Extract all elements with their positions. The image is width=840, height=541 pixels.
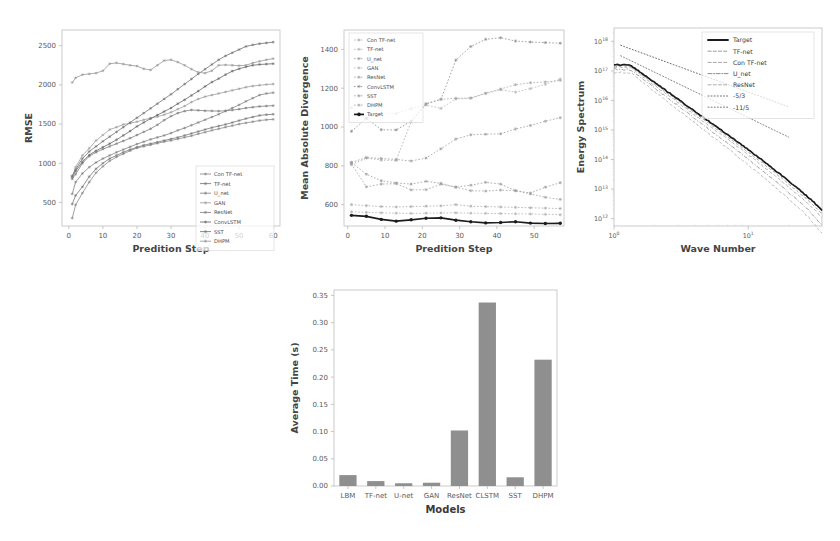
data-marker	[380, 182, 383, 185]
data-marker	[74, 181, 77, 184]
data-marker	[204, 131, 207, 134]
data-marker	[149, 107, 152, 110]
data-marker	[224, 54, 227, 57]
x-tick-label: 10	[98, 232, 107, 240]
data-marker	[365, 215, 368, 218]
y-tick-label: 1400	[320, 46, 338, 54]
data-marker	[265, 92, 268, 95]
data-marker	[245, 86, 248, 89]
data-marker	[499, 132, 502, 135]
data-marker	[115, 154, 118, 157]
data-marker	[136, 120, 139, 123]
data-marker	[265, 58, 268, 61]
data-marker	[469, 96, 472, 99]
data-marker	[81, 192, 84, 195]
data-marker	[499, 221, 502, 224]
bar-group-resnet[interactable]	[451, 430, 468, 486]
bar-group-u-net[interactable]	[395, 483, 412, 486]
bar[interactable]	[367, 481, 384, 486]
bar[interactable]	[479, 303, 496, 486]
bar-group-lbm[interactable]	[339, 475, 356, 486]
bar[interactable]	[395, 483, 412, 486]
data-marker	[238, 103, 241, 106]
legend-marker	[357, 113, 361, 117]
data-marker	[88, 181, 91, 184]
data-marker	[272, 41, 275, 44]
data-marker	[170, 115, 173, 118]
data-marker	[357, 85, 360, 88]
data-marker	[149, 138, 152, 141]
data-marker	[357, 94, 360, 97]
data-marker	[170, 58, 173, 61]
data-marker	[81, 154, 84, 157]
y-tick-label: 1500	[38, 120, 56, 128]
data-marker	[142, 112, 145, 115]
y-tick-label: 1014	[594, 155, 608, 164]
data-marker	[95, 149, 98, 152]
x-tick-label: 100	[608, 231, 619, 240]
data-marker	[231, 124, 234, 127]
data-marker	[101, 162, 104, 165]
legend-label: TF-net	[366, 46, 384, 52]
panel-rmse: 50010001500200025000102030405060Preditio…	[18, 12, 288, 270]
data-marker	[258, 114, 261, 117]
data-marker	[469, 189, 472, 192]
data-marker	[380, 158, 383, 161]
legend-label: TF-net	[732, 48, 753, 55]
bar-group-clstm[interactable]	[479, 303, 496, 486]
data-marker	[224, 63, 227, 66]
data-marker	[454, 58, 457, 61]
data-marker	[529, 212, 532, 215]
bar-group-dhpm[interactable]	[534, 360, 551, 486]
data-marker	[231, 121, 234, 124]
data-marker	[217, 92, 220, 95]
bar[interactable]	[423, 483, 440, 486]
data-marker	[514, 127, 517, 130]
bar[interactable]	[339, 475, 356, 486]
data-marker	[197, 130, 200, 133]
data-marker	[88, 175, 91, 178]
data-marker	[142, 67, 145, 70]
data-marker	[129, 145, 132, 148]
data-marker	[499, 182, 502, 185]
data-marker	[499, 205, 502, 208]
data-marker	[484, 212, 487, 215]
data-marker	[469, 212, 472, 215]
y-tick-label: 0.20	[312, 374, 328, 382]
x-tick-label: 40	[492, 232, 501, 240]
data-marker	[210, 63, 213, 66]
x-axis-title: Wave Number	[680, 243, 755, 254]
data-marker	[357, 66, 360, 69]
data-marker	[245, 107, 248, 110]
data-marker	[136, 134, 139, 137]
data-marker	[163, 134, 166, 137]
data-marker	[108, 128, 111, 131]
data-marker	[176, 102, 179, 105]
data-marker	[183, 98, 186, 101]
data-marker	[559, 116, 562, 119]
data-marker	[95, 72, 98, 75]
data-marker	[183, 83, 186, 86]
data-marker	[365, 185, 368, 188]
data-marker	[469, 220, 472, 223]
bar[interactable]	[534, 360, 551, 486]
data-marker	[357, 76, 360, 79]
data-marker	[136, 116, 139, 119]
legend-label: U_net	[214, 190, 229, 197]
bar[interactable]	[507, 477, 524, 486]
bar[interactable]	[451, 430, 468, 486]
bar-group-tf-net[interactable]	[367, 481, 384, 486]
bar-group-sst[interactable]	[507, 477, 524, 486]
data-marker	[122, 134, 125, 137]
data-marker	[108, 142, 111, 145]
data-marker	[74, 194, 77, 197]
data-marker	[439, 211, 442, 214]
x-tick-label: U-net	[394, 492, 413, 500]
data-marker	[514, 83, 517, 86]
data-marker	[544, 186, 547, 189]
data-marker	[129, 64, 132, 67]
data-marker	[204, 240, 207, 243]
data-marker	[204, 182, 207, 185]
bar-group-gan[interactable]	[423, 483, 440, 486]
y-tick-label: 0.15	[312, 401, 328, 409]
